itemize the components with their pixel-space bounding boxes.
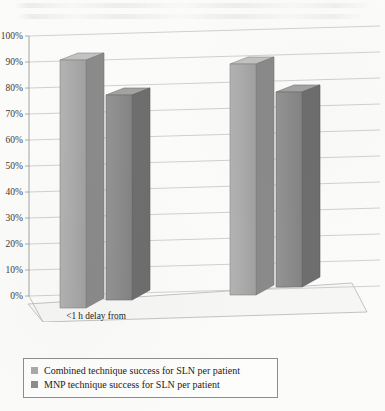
ytick-label: 100%: [1, 31, 23, 41]
ytick-label: 40%: [6, 187, 24, 197]
ytick-label: 20%: [6, 239, 24, 249]
ytick-label: 80%: [6, 83, 24, 93]
value-axis-labels: 100% 90% 80% 70% 60% 50% 40% 30% 20% 10%…: [1, 31, 23, 301]
bleed-line: [18, 14, 366, 19]
chart-canvas: 100% 90% 80% 70% 60% 50% 40% 30% 20% 10%…: [0, 22, 385, 322]
legend-swatch-icon: [31, 367, 38, 374]
value-axis-ticks: [25, 36, 29, 296]
value-axis: [29, 36, 43, 322]
bar-group2-series1: [230, 57, 274, 295]
ytick-label: 30%: [6, 213, 24, 223]
ytick-label: 50%: [6, 161, 24, 171]
legend-item-combined[interactable]: Combined technique success for SLN per p…: [31, 364, 270, 377]
bleed-line: [14, 3, 372, 8]
ytick-label: 10%: [6, 265, 24, 275]
chart-legend: Combined technique success for SLN per p…: [23, 358, 278, 398]
legend-label: Combined technique success for SLN per p…: [44, 364, 240, 377]
legend-swatch-icon: [31, 381, 38, 388]
category-label-line: <1 h delay from: [66, 311, 126, 321]
legend-label: MNP technique success for SLN per patien…: [44, 378, 220, 391]
bar-chart: 100% 90% 80% 70% 60% 50% 40% 30% 20% 10%…: [0, 22, 385, 322]
bar-group2-series2: [276, 85, 320, 287]
ytick-label: 90%: [6, 57, 24, 67]
ytick-label: 70%: [6, 109, 24, 119]
legend-item-mnp[interactable]: MNP technique success for SLN per patien…: [31, 378, 270, 391]
ytick-label: 0%: [10, 291, 23, 301]
bar-group1-series1: [60, 53, 104, 308]
ytick-label: 60%: [6, 135, 24, 145]
bar-group1-series2: [106, 88, 150, 300]
